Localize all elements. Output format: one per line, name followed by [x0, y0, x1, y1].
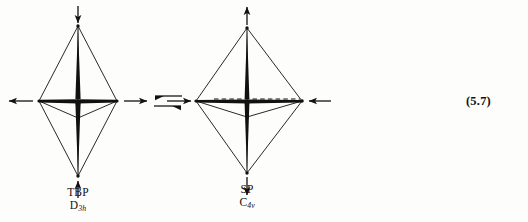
- label-sp-point-group-subscript: 4v: [247, 201, 254, 210]
- figure-root: TBP D3h SP C4v (5.7): [0, 0, 528, 222]
- label-tbp-point-group-subscript: 3h: [78, 204, 86, 213]
- equation-number: (5.7): [466, 94, 491, 109]
- label-sp: SP C4v: [215, 183, 279, 211]
- label-sp-point-group: C4v: [215, 196, 279, 211]
- label-tbp-name: TBP: [46, 186, 110, 199]
- tbp-equatorial-bond-right: [78, 99, 117, 103]
- label-tbp-point-group: D3h: [46, 199, 110, 214]
- tbp-equatorial-bond-left: [40, 99, 79, 103]
- label-tbp: TBP D3h: [46, 186, 110, 214]
- sp-equatorial-bond-left: [197, 99, 248, 103]
- sp-equatorial-bond-right: [247, 99, 302, 103]
- structure-sp: [194, 7, 331, 195]
- tbp-axial-bond-top: [75, 26, 80, 99]
- equilibrium-connector: [154, 96, 191, 106]
- label-sp-name: SP: [215, 183, 279, 196]
- structure-tbp: [9, 6, 147, 198]
- sp-axial-bond-top: [245, 28, 250, 99]
